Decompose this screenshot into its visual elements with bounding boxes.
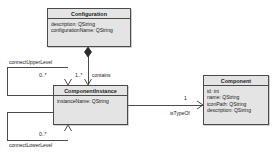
label-connect-upper-level: connectUpperLevel (9, 59, 52, 65)
class-configuration[interactable]: Configuration description: QString confi… (47, 8, 131, 47)
class-component[interactable]: Component id: int name: QString iconPath… (203, 75, 269, 125)
class-component-title: Component (204, 76, 268, 86)
composition-diamond-icon (85, 47, 92, 57)
class-component-instance-title: ComponentInstance (54, 86, 127, 96)
attribute-description: description: QString (51, 21, 127, 28)
uml-class-diagram: Configuration description: QString confi… (0, 0, 280, 155)
class-component-attributes: id: int name: QString iconPath: QString … (204, 86, 268, 115)
attribute-name: name: QString (207, 94, 265, 101)
label-istypeof: isTypeOf (170, 110, 190, 116)
attribute-id: id: int (207, 88, 265, 95)
class-component-instance-attributes: instanceName: QString (54, 96, 127, 106)
label-istypeof-multiplicity: 1 (184, 95, 187, 101)
class-configuration-title: Configuration (48, 9, 130, 19)
label-connect-lower-level: connectLowerLevel (9, 142, 52, 148)
attribute-configuration-name: configurationName: QString (51, 27, 127, 34)
label-connect-lower-multiplicity: 0..* (39, 131, 47, 137)
label-contains: contains (92, 72, 111, 78)
attribute-instance-name: instanceName: QString (57, 98, 124, 105)
attribute-description: description: QString (207, 107, 265, 114)
class-component-instance[interactable]: ComponentInstance instanceName: QString (53, 85, 128, 125)
class-configuration-attributes: description: QString configurationName: … (48, 19, 130, 35)
label-connect-upper-multiplicity: 0..* (39, 72, 47, 78)
attribute-icon-path: iconPath: QString (207, 101, 265, 108)
label-contains-multiplicity: 1..* (75, 72, 83, 78)
